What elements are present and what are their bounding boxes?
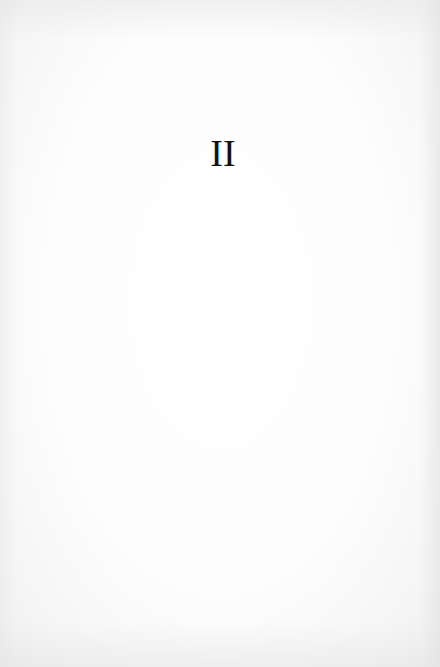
part-number-heading: II bbox=[0, 131, 440, 175]
book-page: II bbox=[0, 0, 440, 667]
